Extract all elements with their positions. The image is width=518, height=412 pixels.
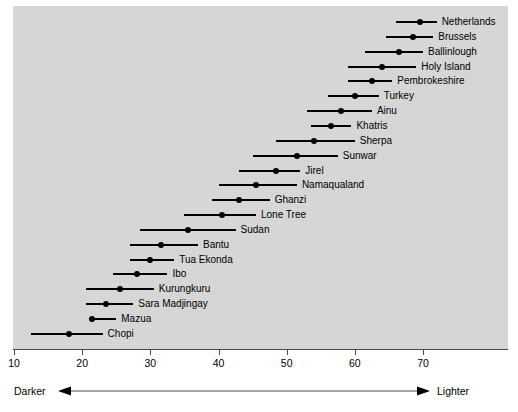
mean-marker <box>103 301 109 307</box>
row-label: Ibo <box>172 268 186 279</box>
x-axis-tick-label: 10 <box>8 357 20 369</box>
x-axis-tick <box>150 349 151 355</box>
x-axis-tick <box>423 349 424 355</box>
data-row: Holy Island <box>13 60 508 75</box>
chart-root: NetherlandsBrusselsBallinloughHoly Islan… <box>0 0 518 412</box>
x-axis-tick <box>219 349 220 355</box>
row-label: Khatris <box>356 120 387 131</box>
range-line <box>239 170 300 172</box>
mean-marker <box>369 78 375 84</box>
data-row: Namaqualand <box>13 178 508 193</box>
data-row: Sherpa <box>13 134 508 149</box>
data-row: Ghanzi <box>13 193 508 208</box>
row-label: Pembrokeshire <box>397 75 464 86</box>
row-label: Sherpa <box>360 135 392 146</box>
row-label: Holy Island <box>421 61 470 72</box>
mean-marker <box>158 242 164 248</box>
mean-marker <box>185 227 191 233</box>
mean-marker <box>117 286 123 292</box>
x-axis-tick <box>82 349 83 355</box>
data-row: Jirel <box>13 164 508 179</box>
row-label: Lone Tree <box>261 209 306 220</box>
mean-marker <box>66 331 72 337</box>
data-row: Sunwar <box>13 149 508 164</box>
data-row: Pembrokeshire <box>13 74 508 89</box>
data-row: Khatris <box>13 119 508 134</box>
x-axis-tick-label: 40 <box>213 357 225 369</box>
mean-marker <box>273 168 279 174</box>
mean-marker <box>253 182 259 188</box>
row-label: Mazua <box>121 313 151 324</box>
data-row: Ainu <box>13 104 508 119</box>
row-label: Sudan <box>241 224 270 235</box>
row-label: Tua Ekonda <box>179 254 233 265</box>
x-axis-tick-label: 60 <box>349 357 361 369</box>
direction-arrow-icon <box>58 382 430 400</box>
data-row: Ibo <box>13 267 508 282</box>
mean-marker <box>89 316 95 322</box>
row-label: Ballinlough <box>428 46 477 57</box>
x-axis-tick <box>355 349 356 355</box>
range-line <box>86 303 134 305</box>
lighter-label: Lighter <box>437 385 469 397</box>
row-label: Brussels <box>438 31 476 42</box>
mean-marker <box>219 212 225 218</box>
x-axis-tick <box>287 349 288 355</box>
x-axis-tick-label: 20 <box>76 357 88 369</box>
data-row: Lone Tree <box>13 208 508 223</box>
row-label: Kurungkuru <box>159 283 211 294</box>
range-line <box>365 51 423 53</box>
x-axis-tick-label: 70 <box>417 357 429 369</box>
mean-marker <box>134 271 140 277</box>
mean-marker <box>410 34 416 40</box>
range-line <box>113 273 168 275</box>
mean-marker <box>311 138 317 144</box>
row-label: Jirel <box>305 165 323 176</box>
plot-area: NetherlandsBrusselsBallinloughHoly Islan… <box>13 6 508 349</box>
mean-marker <box>379 64 385 70</box>
x-axis-line <box>13 349 508 350</box>
row-label: Bantu <box>203 239 229 250</box>
darker-label: Darker <box>14 385 46 397</box>
data-row: Turkey <box>13 89 508 104</box>
mean-marker <box>417 19 423 25</box>
row-label: Netherlands <box>442 16 496 27</box>
range-line <box>130 244 198 246</box>
mean-marker <box>328 123 334 129</box>
mean-marker <box>338 108 344 114</box>
mean-marker <box>236 197 242 203</box>
data-row: Tua Ekonda <box>13 253 508 268</box>
data-row: Mazua <box>13 312 508 327</box>
data-row: Sudan <box>13 223 508 238</box>
x-axis-tick-label: 50 <box>281 357 293 369</box>
data-row: Brussels <box>13 30 508 45</box>
data-row: Ballinlough <box>13 45 508 60</box>
row-label: Turkey <box>384 90 414 101</box>
data-row: Chopi <box>13 327 508 342</box>
row-label: Namaqualand <box>302 179 364 190</box>
mean-marker <box>352 93 358 99</box>
mean-marker <box>147 257 153 263</box>
mean-marker <box>396 49 402 55</box>
row-label: Ainu <box>377 105 397 116</box>
data-row: Kurungkuru <box>13 282 508 297</box>
x-axis-tick <box>14 349 15 355</box>
data-row: Netherlands <box>13 15 508 30</box>
row-label: Ghanzi <box>275 194 307 205</box>
row-label: Chopi <box>108 328 134 339</box>
mean-marker <box>294 153 300 159</box>
row-label: Sara Madjingay <box>138 298 207 309</box>
data-row: Sara Madjingay <box>13 297 508 312</box>
row-label: Sunwar <box>343 150 377 161</box>
data-row: Bantu <box>13 238 508 253</box>
x-axis-tick-label: 30 <box>144 357 156 369</box>
